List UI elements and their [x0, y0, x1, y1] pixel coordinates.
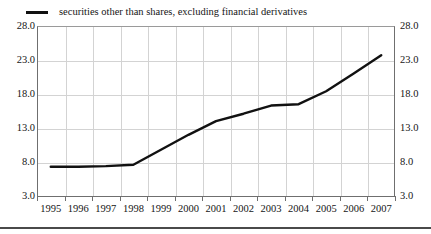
- x-axis-tick: [37, 196, 38, 201]
- x-axis-label: 2006: [340, 203, 368, 215]
- footer-rule: [0, 227, 431, 229]
- x-axis-label: 1997: [92, 203, 120, 215]
- y-axis-label-right: 28.0: [400, 20, 431, 31]
- x-gridline: [368, 27, 369, 196]
- x-gridline: [258, 27, 259, 196]
- x-axis-label: 2002: [230, 203, 258, 215]
- x-gridline: [66, 27, 67, 196]
- y-axis-label-left: 3.0: [0, 190, 35, 201]
- x-axis-tick: [92, 196, 93, 201]
- x-axis-label: 1998: [120, 203, 148, 215]
- y-axis-label-left: 13.0: [0, 122, 35, 133]
- y-axis-label-right: 3.0: [400, 190, 431, 201]
- x-axis-label: 1996: [65, 203, 93, 215]
- x-gridline: [121, 27, 122, 196]
- x-axis-tick: [257, 196, 258, 201]
- x-gridline: [148, 27, 149, 196]
- x-axis-tick: [395, 196, 396, 201]
- x-axis-tick: [202, 196, 203, 201]
- x-axis-tick: [230, 196, 231, 201]
- x-gridline: [313, 27, 314, 196]
- plot-area: [37, 26, 395, 196]
- x-axis-label: 2005: [312, 203, 340, 215]
- x-gridline: [231, 27, 232, 196]
- x-axis-label: 1999: [147, 203, 175, 215]
- x-gridline: [341, 27, 342, 196]
- y-axis-label-right: 13.0: [400, 122, 431, 133]
- x-axis-line: [37, 196, 395, 197]
- y-axis-label-left: 18.0: [0, 88, 35, 99]
- x-axis-label: 2007: [367, 203, 395, 215]
- x-axis-tick: [120, 196, 121, 201]
- x-axis-tick: [285, 196, 286, 201]
- y-axis-label-right: 8.0: [400, 156, 431, 167]
- y-axis-label-right: 18.0: [400, 88, 431, 99]
- x-axis-tick: [147, 196, 148, 201]
- x-axis-label: 2001: [202, 203, 230, 215]
- x-gridline: [176, 27, 177, 196]
- y-axis-label-left: 8.0: [0, 156, 35, 167]
- x-gridline: [203, 27, 204, 196]
- x-gridline: [93, 27, 94, 196]
- x-axis-tick: [312, 196, 313, 201]
- x-axis-label: 2004: [285, 203, 313, 215]
- x-axis-label: 1995: [37, 203, 65, 215]
- x-axis-label: 2000: [175, 203, 203, 215]
- x-axis-tick: [175, 196, 176, 201]
- y-axis-label-left: 28.0: [0, 20, 35, 31]
- x-gridline: [286, 27, 287, 196]
- y-axis-label-left: 23.0: [0, 54, 35, 65]
- x-axis-tick: [340, 196, 341, 201]
- x-axis-tick: [367, 196, 368, 201]
- x-axis-tick: [65, 196, 66, 201]
- y-axis-label-right: 23.0: [400, 54, 431, 65]
- line-chart: 28.0 23.0 18.0 13.0 8.0 3.0 28.0 23.0 18…: [0, 0, 431, 234]
- x-axis-label: 2003: [257, 203, 285, 215]
